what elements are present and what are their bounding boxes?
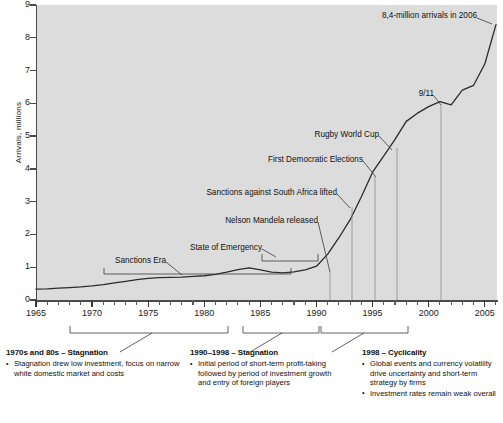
x-tick-label: 2005 [465, 308, 503, 318]
note-bullets-3: Global events and currency volatility dr… [362, 359, 502, 398]
y-tick-label: 5 [8, 131, 30, 140]
x-tick-mark [406, 300, 407, 305]
y-tick-label: 0 [8, 295, 30, 304]
x-tick-mark [350, 300, 351, 305]
x-tick-mark-major [204, 300, 205, 307]
note-title-2: 1990–1998 – Stagnation [190, 348, 340, 357]
annotation-final-arrivals: 8,4-million arrivals in 2006 [337, 11, 477, 20]
x-tick-mark-major [372, 300, 373, 307]
note-block-3: 1998 – Cyclicality Global events and cur… [362, 348, 502, 399]
x-tick-mark-major [428, 300, 429, 307]
note-title-1: 1970s and 80s – Stagnation [6, 348, 181, 357]
x-tick-label: 1990 [296, 308, 336, 318]
x-tick-mark [114, 300, 115, 305]
chart-figure: Arrivals, millions 0123456789 1965197019… [0, 0, 503, 423]
x-tick-mark [473, 300, 474, 305]
x-tick-mark [462, 300, 463, 305]
x-tick-mark [159, 300, 160, 305]
x-tick-mark-major [316, 300, 317, 307]
x-tick-mark [271, 300, 272, 305]
y-tick-label: 8 [8, 33, 30, 42]
note-block-2: 1990–1998 – Stagnation Initial period of… [190, 348, 340, 389]
x-tick-mark [136, 300, 137, 305]
note-bullet: Stagnation drew low investment, focus on… [6, 359, 181, 378]
period-bracket-2 [243, 326, 319, 333]
x-tick-mark [249, 300, 250, 305]
x-tick-label: 1980 [184, 308, 224, 318]
y-tick-label: 3 [8, 197, 30, 206]
x-tick-mark [383, 300, 384, 305]
x-tick-mark [394, 300, 395, 305]
note-bullet: Investment rates remain weak overall [362, 389, 502, 399]
x-tick-label: 1975 [128, 308, 168, 318]
x-tick-label: 1965 [16, 308, 56, 318]
x-tick-label: 1995 [353, 308, 393, 318]
x-tick-mark [417, 300, 418, 305]
y-tick-label: 9 [8, 0, 30, 9]
x-tick-mark [282, 300, 283, 305]
x-tick-mark [192, 300, 193, 305]
annotation-state-of-emergency: State of Emergency [122, 243, 262, 252]
note-bullet: Global events and currency volatility dr… [362, 359, 502, 388]
x-tick-mark [439, 300, 440, 305]
x-tick-mark [125, 300, 126, 305]
y-tick-label: 7 [8, 66, 30, 75]
x-tick-mark [226, 300, 227, 305]
annotation-first-democratic-elections: First Democratic Elections [203, 155, 363, 164]
annotation-sanctions-lifted: Sanctions against South Africa lifted [137, 188, 337, 197]
x-tick-mark-major [484, 300, 485, 307]
x-tick-mark-major [35, 300, 36, 307]
x-tick-mark [80, 300, 81, 305]
annotation-nelson-mandela-released: Nelson Mandela released [138, 216, 318, 225]
x-tick-mark [305, 300, 306, 305]
y-tick-label: 6 [8, 98, 30, 107]
period-bracket-3 [321, 326, 408, 333]
x-tick-mark [215, 300, 216, 305]
y-tick-label: 4 [8, 164, 30, 173]
x-tick-mark [451, 300, 452, 305]
note-title-3: 1998 – Cyclicality [362, 348, 502, 357]
x-tick-mark [293, 300, 294, 305]
annotation-rugby-world-cup: Rugby World Cup [259, 130, 379, 139]
x-tick-mark [181, 300, 182, 305]
note-bullets-1: Stagnation drew low investment, focus on… [6, 359, 181, 378]
x-tick-mark [58, 300, 59, 305]
x-tick-label: 1985 [240, 308, 280, 318]
x-tick-mark-major [148, 300, 149, 307]
x-tick-mark [103, 300, 104, 305]
x-tick-mark [327, 300, 328, 305]
x-tick-mark-major [91, 300, 92, 307]
annotation-sanctions-era: Sanctions Era [26, 256, 166, 265]
x-tick-mark [237, 300, 238, 305]
x-tick-mark-major [260, 300, 261, 307]
x-tick-mark [69, 300, 70, 305]
x-tick-mark [170, 300, 171, 305]
note-bullet: Initial period of short-term profit-taki… [190, 359, 340, 388]
x-tick-mark [47, 300, 48, 305]
note-block-1: 1970s and 80s – Stagnation Stagnation dr… [6, 348, 181, 379]
y-tick-label: 2 [8, 229, 30, 238]
annotation-nine-eleven: 9/11 [394, 89, 434, 98]
x-tick-label: 1970 [72, 308, 112, 318]
x-tick-label: 2000 [409, 308, 449, 318]
period-bracket-1 [70, 326, 228, 333]
note-bullets-2: Initial period of short-term profit-taki… [190, 359, 340, 388]
x-tick-mark [338, 300, 339, 305]
x-tick-mark [361, 300, 362, 305]
x-tick-mark [495, 300, 496, 305]
